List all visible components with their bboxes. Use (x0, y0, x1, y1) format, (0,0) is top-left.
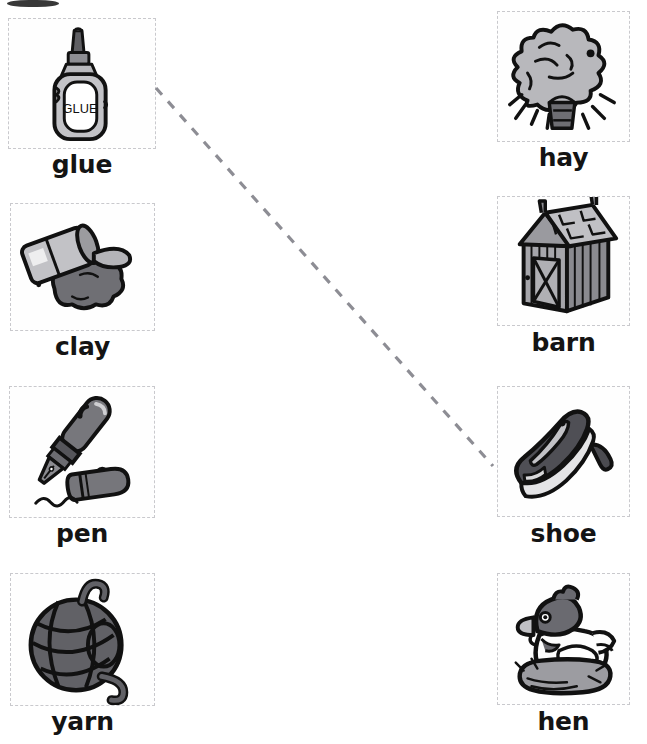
fountain-pen-icon (10, 387, 154, 517)
picture-box-barn[interactable] (497, 196, 630, 326)
hen-in-nest-icon (498, 574, 629, 704)
picture-box-hay[interactable] (497, 11, 630, 142)
picture-box-hen[interactable] (497, 573, 630, 705)
clay-container-icon (11, 204, 154, 330)
word-label-hen: hen (497, 707, 630, 737)
word-label-shoe: shoe (497, 519, 630, 549)
picture-box-glue[interactable]: GLUE (8, 18, 156, 149)
word-label-pen: pen (9, 519, 155, 549)
item-barn[interactable]: barn (497, 196, 630, 357)
item-yarn[interactable]: yarn (10, 573, 155, 738)
worksheet-sheet: GLUE glue (0, 0, 647, 744)
word-label-clay: clay (10, 332, 155, 362)
item-shoe[interactable]: shoe (497, 386, 630, 548)
word-label-yarn: yarn (10, 707, 155, 737)
picture-box-pen[interactable] (9, 386, 155, 518)
item-hen[interactable]: hen (497, 573, 630, 737)
connector-glue-to-shoe[interactable] (156, 88, 493, 466)
picture-box-clay[interactable] (10, 203, 155, 331)
item-glue[interactable]: GLUE glue (8, 18, 156, 180)
yarn-ball-icon (11, 574, 154, 705)
picture-box-shoe[interactable] (497, 386, 630, 517)
item-pen[interactable]: pen (9, 386, 155, 551)
word-label-barn: barn (497, 328, 630, 358)
barn-icon (498, 197, 629, 325)
svg-text:GLUE: GLUE (63, 101, 98, 116)
glue-bottle-icon: GLUE (9, 19, 155, 148)
high-heel-shoe-icon (498, 387, 629, 516)
word-label-glue: glue (8, 150, 156, 180)
word-label-hay: hay (497, 143, 630, 173)
item-hay[interactable]: hay (497, 11, 630, 173)
item-clay[interactable]: clay (10, 203, 155, 363)
picture-box-yarn[interactable] (10, 573, 155, 706)
haystack-icon (498, 12, 629, 141)
